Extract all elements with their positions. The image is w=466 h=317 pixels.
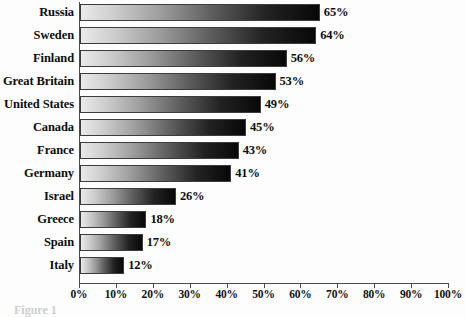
bar (80, 96, 261, 113)
bar-value-label: 26% (180, 187, 204, 206)
category-label: Sweden (0, 26, 74, 45)
category-label: Germany (0, 164, 74, 183)
bar-row: Great Britain53% (0, 72, 452, 91)
bar-row: France43% (0, 141, 452, 160)
bar (80, 119, 246, 136)
category-label: Finland (0, 49, 74, 68)
bar-row: Germany41% (0, 164, 452, 183)
bar-row: Israel26% (0, 187, 452, 206)
category-label: United States (0, 95, 74, 114)
bar-row: United States49% (0, 95, 452, 114)
bar-value-label: 12% (128, 256, 152, 275)
bar (80, 4, 320, 21)
bar-value-label: 64% (320, 26, 344, 45)
bar-row: Sweden64% (0, 26, 452, 45)
bar-value-label: 18% (150, 210, 174, 229)
category-label: Russia (0, 3, 74, 22)
category-label: France (0, 141, 74, 160)
bar (80, 188, 176, 205)
bar (80, 142, 239, 159)
bar-value-label: 17% (147, 233, 171, 252)
bar (80, 27, 316, 44)
bar-row: Canada45% (0, 118, 452, 137)
bar-row: Italy12% (0, 256, 452, 275)
bar (80, 50, 287, 67)
bar-value-label: 53% (280, 72, 304, 91)
x-axis-tick-label: 100% (423, 288, 466, 300)
bar-row: Finland56% (0, 49, 452, 68)
bar-value-label: 49% (265, 95, 289, 114)
bar-row: Russia65% (0, 3, 452, 22)
bar-value-label: 56% (291, 49, 315, 68)
bar (80, 257, 124, 274)
bar (80, 165, 231, 182)
category-label: Greece (0, 210, 74, 229)
bar-value-label: 45% (250, 118, 274, 137)
bar-row: Greece18% (0, 210, 452, 229)
bar (80, 211, 146, 228)
bar-value-label: 43% (243, 141, 267, 160)
bar-row: Spain17% (0, 233, 452, 252)
category-label: Great Britain (0, 72, 74, 91)
bar-value-label: 41% (235, 164, 259, 183)
figure-caption: Figure 1 (14, 303, 57, 317)
category-label: Canada (0, 118, 74, 137)
bar (80, 73, 276, 90)
bar (80, 234, 143, 251)
category-label: Spain (0, 233, 74, 252)
category-label: Israel (0, 187, 74, 206)
category-label: Italy (0, 256, 74, 275)
bar-value-label: 65% (324, 3, 348, 22)
